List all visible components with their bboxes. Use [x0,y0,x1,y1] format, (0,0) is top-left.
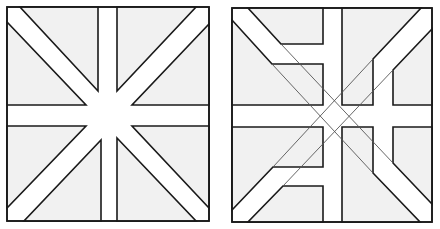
left-panel-border [7,7,209,221]
left-panel [7,7,209,221]
right-panel [232,8,432,222]
right-panel-border [232,8,432,222]
figure [0,0,440,229]
